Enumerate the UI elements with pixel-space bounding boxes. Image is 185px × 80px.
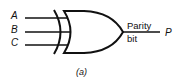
xor-gate-diagram: A B C Parity bit P (a) bbox=[0, 0, 185, 80]
input-label-a: A bbox=[10, 10, 18, 21]
xor-gate-body bbox=[64, 11, 123, 53]
output-name-line2: bit bbox=[127, 33, 137, 44]
output-label-p: P bbox=[165, 27, 172, 38]
input-label-c: C bbox=[11, 37, 19, 48]
figure-caption: (a) bbox=[76, 67, 87, 77]
input-label-b: B bbox=[11, 24, 18, 35]
output-name-line1: Parity bbox=[127, 20, 152, 31]
